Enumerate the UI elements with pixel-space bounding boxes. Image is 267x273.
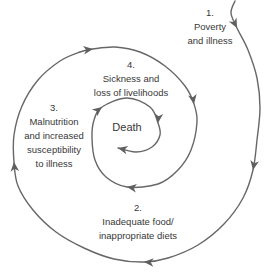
spiral-arrowhead-3 <box>144 258 154 267</box>
stage-1-label: 1. Poverty and illness <box>188 6 233 48</box>
stage-3-label: 3. Malnutrition and increased susceptibi… <box>24 101 84 171</box>
spiral-arrowhead-10 <box>117 144 128 155</box>
stage-2-label: 2. Inadequate food/ inappropriate diets <box>99 201 177 243</box>
spiral-diagram: 1. Poverty and illness 4. Sickness and l… <box>0 0 267 273</box>
stage-4-label: 4. Sickness and loss of livelihoods <box>94 58 168 100</box>
death-center-label: Death <box>112 120 141 134</box>
spiral-arrowhead-8 <box>92 104 105 117</box>
spiral-arrowhead-9 <box>154 113 163 123</box>
